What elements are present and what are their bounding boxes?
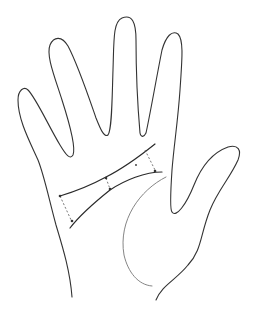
hand-diagram: Line drawing of a left palm with two pal…: [0, 0, 257, 317]
endpoint-marker: [154, 170, 157, 173]
middle-measure-segment: [106, 178, 110, 189]
hand-outline: [18, 17, 240, 300]
hand-drawing: [0, 0, 257, 317]
endpoint-marker: [109, 188, 112, 191]
right-measure-segment: [145, 150, 156, 172]
endpoint-marker: [105, 177, 108, 180]
endpoint-marker: [71, 220, 74, 223]
marker-dot: [135, 164, 137, 166]
heart-line: [60, 144, 155, 196]
head-line: [70, 172, 162, 228]
endpoint-marker: [59, 195, 62, 198]
life-line: [123, 177, 166, 286]
left-measure-segment: [60, 196, 72, 222]
